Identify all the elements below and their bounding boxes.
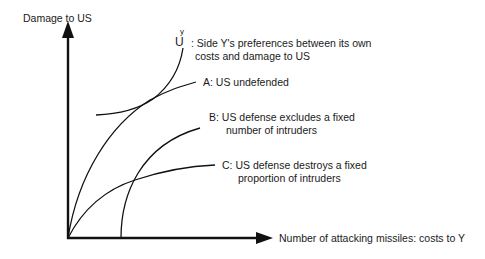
curve-a-label: A: US undefended	[203, 76, 289, 88]
utility-superscript: y	[180, 27, 184, 36]
curve-c-label-line1: C: US defense destroys a fixed	[222, 159, 367, 171]
curve-b-label-line2: number of intruders	[226, 124, 317, 136]
curve-b-label-line1: B: US defense excludes a fixed	[209, 111, 355, 123]
utility-label-line2: costs and damage to US	[195, 50, 310, 62]
curve-utility-y	[96, 48, 183, 115]
curve-c-label-line2: proportion of intruders	[238, 172, 341, 184]
utility-label-line1: : Side Y's preferences between its own	[191, 37, 371, 49]
curve-c	[68, 165, 215, 238]
x-axis-arrow-icon	[256, 232, 273, 244]
curve-b	[121, 128, 200, 238]
y-axis-label: Damage to US	[23, 12, 92, 24]
curve-a	[68, 82, 196, 238]
utility-symbol: U	[175, 35, 184, 49]
x-axis-label: Number of attacking missiles: costs to Y	[279, 232, 465, 244]
